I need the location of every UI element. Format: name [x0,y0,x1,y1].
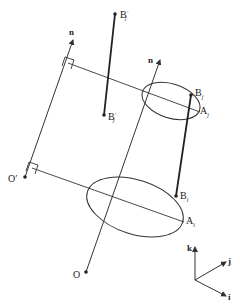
right-normal-axis [86,60,160,272]
bj-bi-segment [176,95,191,196]
diagram-canvas: n n B′j B′j Bj Aj Bi Ai O′ O k j i [0,0,240,304]
label-n-right: n [148,55,153,65]
label-bj-prime-mid: B′j [108,111,117,123]
bj-prime-top-point [113,12,117,16]
axis-i [195,280,226,296]
axis-j [195,262,226,280]
left-normal-axis [25,40,73,177]
bi-point [174,194,178,198]
label-axis-i: i [228,292,231,302]
lower-projection-line [32,168,184,222]
label-bi: Bi [180,190,189,203]
label-aj: Aj [200,105,209,118]
lower-ellipse [79,166,191,248]
label-bj-prime-top: B′j [120,9,129,21]
upper-projection-line [68,63,200,112]
o-point [84,270,88,274]
bj-prime-segment [104,14,115,115]
label-axis-k: k [187,243,192,253]
label-o: O [73,269,80,280]
label-axis-j: j [227,256,231,266]
o-prime-point [23,175,27,179]
label-o-prime: O′ [8,173,17,184]
bj-point [189,93,193,97]
bj-prime-mid-point [102,113,106,117]
label-n-left: n [69,27,74,37]
label-ai: Ai [186,215,195,228]
